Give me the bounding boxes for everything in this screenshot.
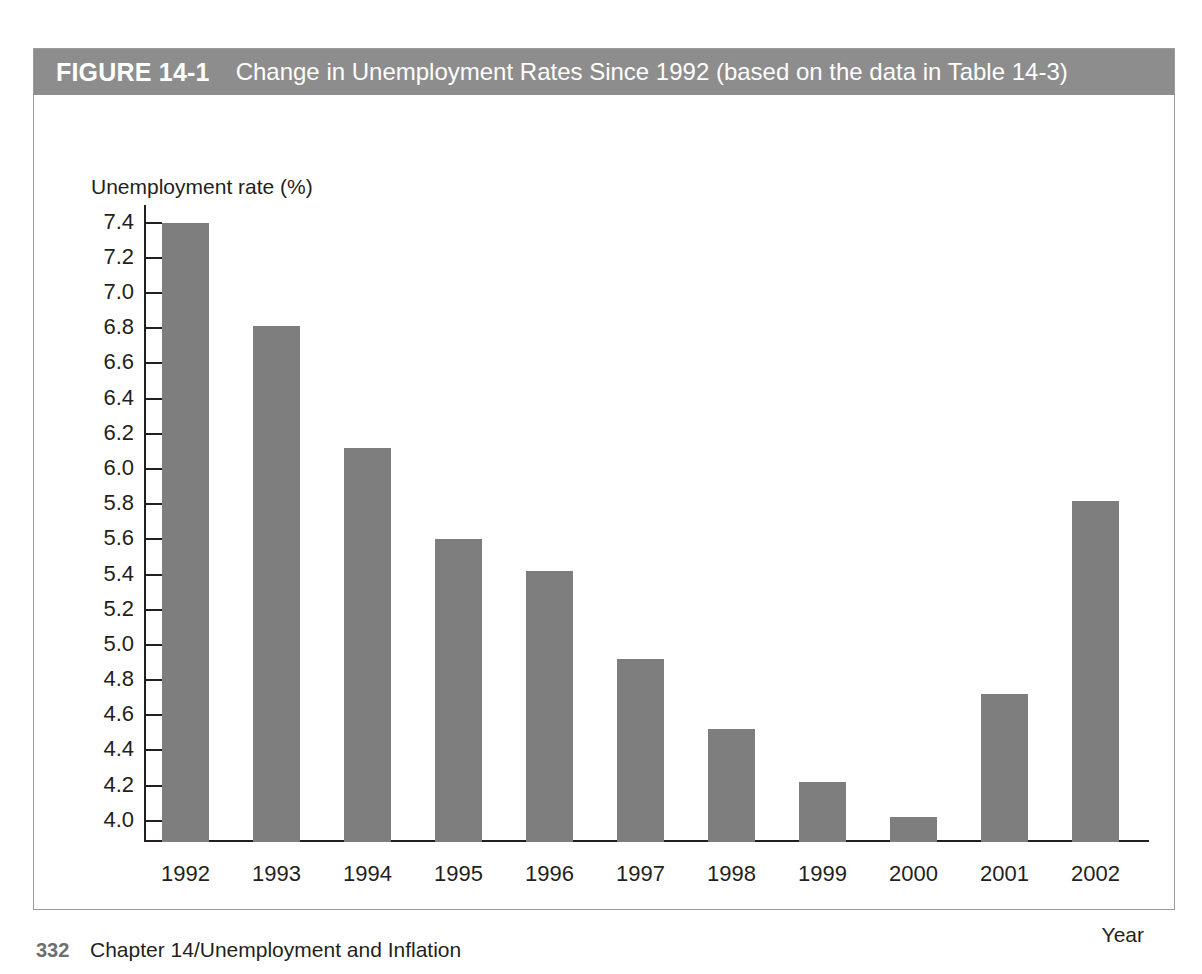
y-axis-tick-label-text: 4.6 [72,703,134,725]
bar-1997 [617,659,664,842]
y-axis-tick-label-text: 4.4 [72,738,134,760]
x-axis-label-2000: 2000 [869,861,959,887]
y-axis-tick-label: 6.8 [62,316,134,338]
y-axis-tick-label: 6.0 [62,457,134,479]
y-axis-tick-label: 5.8 [62,492,134,514]
y-axis-tick-label: 7.0 [62,281,134,303]
y-axis-tick-label-text: 7.0 [72,281,134,303]
bar-1999 [799,782,846,842]
x-axis-label-1993: 1993 [232,861,322,887]
y-axis-tick-label-text: 5.2 [72,598,134,620]
figure-title: Change in Unemployment Rates Since 1992 … [236,58,1068,86]
y-axis-tick-label-text: 6.4 [72,387,134,409]
y-axis-tick-label-text: 7.2 [72,246,134,268]
y-axis-tick-label: 4.4 [62,738,134,760]
y-axis-tick-label: 5.4 [62,563,134,585]
y-axis-tick-label: 6.2 [62,422,134,444]
y-axis-tick-label-text: 5.6 [72,527,134,549]
y-axis-tick-label-text: 4.0 [72,809,134,831]
chart-plot-area: Unemployment rate (%) 7.47.27.06.86.66.4… [34,95,1174,909]
x-axis-label-1998: 1998 [687,861,777,887]
y-axis-tick-label: 4.6 [62,703,134,725]
bar-1995 [435,539,482,842]
y-axis-tick-label-text: 6.8 [72,316,134,338]
bar-series [144,205,1149,842]
x-axis-label-1995: 1995 [414,861,504,887]
x-axis-label-2001: 2001 [960,861,1050,887]
bar-2001 [981,694,1028,842]
y-axis-tick-label-text: 6.6 [72,351,134,373]
y-axis-tick-label-text: 6.0 [72,457,134,479]
y-axis-tick-label-text: 6.2 [72,422,134,444]
page-number: 332 [36,939,90,962]
y-axis-tick-label-text: 7.4 [72,211,134,233]
x-axis-label-1996: 1996 [505,861,595,887]
bar-2002 [1072,501,1119,842]
figure-container: FIGURE 14-1 Change in Unemployment Rates… [33,48,1175,910]
y-axis-tick-label-text: 4.8 [72,668,134,690]
x-axis-label-1999: 1999 [778,861,868,887]
y-axis-tick-label: 5.0 [62,633,134,655]
bar-1994 [344,448,391,842]
y-axis-tick-label: 6.6 [62,351,134,373]
y-axis-tick-label-text: 5.8 [72,492,134,514]
x-axis-label-2002: 2002 [1051,861,1141,887]
y-axis-tick-label-text: 4.2 [72,774,134,796]
figure-header-bar: FIGURE 14-1 Change in Unemployment Rates… [34,49,1174,95]
bar-1993 [253,326,300,842]
y-axis-tick-label: 7.2 [62,246,134,268]
y-axis-tick-label: 5.2 [62,598,134,620]
y-axis-tick-label: 4.0 [62,809,134,831]
x-axis-label-1997: 1997 [596,861,686,887]
page-footer: 332 Chapter 14/Unemployment and Inflatio… [36,938,461,962]
y-axis-tick-label: 4.2 [62,774,134,796]
y-axis-tick-label: 5.6 [62,527,134,549]
bar-2000 [890,817,937,842]
x-axis-label-1992: 1992 [141,861,231,887]
bar-1996 [526,571,573,842]
x-axis-title: Year [1102,923,1144,947]
y-axis-title: Unemployment rate (%) [91,175,313,199]
x-axis-label-1994: 1994 [323,861,413,887]
y-axis-tick-label-text: 5.0 [72,633,134,655]
bar-1992 [162,223,209,842]
y-axis-tick-label: 6.4 [62,387,134,409]
chapter-title: Chapter 14/Unemployment and Inflation [90,938,461,962]
y-axis-tick-label: 7.4 [62,211,134,233]
figure-number-label: FIGURE 14-1 [56,58,210,87]
y-axis-tick-label-text: 5.4 [72,563,134,585]
bar-1998 [708,729,755,842]
y-axis-tick-label: 4.8 [62,668,134,690]
